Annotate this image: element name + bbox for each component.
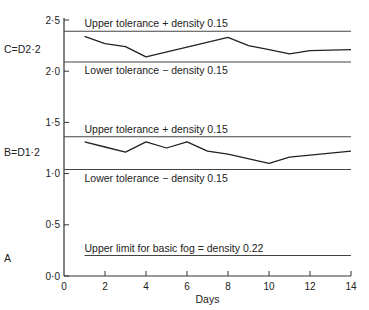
reference-line-label: Lower tolerance − density 0.15 [85, 172, 228, 184]
series-line [85, 36, 352, 57]
x-tick-label: 4 [143, 281, 149, 292]
x-tick-label: 6 [184, 281, 190, 292]
side-labels: C=D2·2B=D1·2A [4, 43, 41, 264]
series-label: B=D1·2 [4, 146, 40, 158]
y-tick-label: 2·5 [46, 15, 61, 26]
x-axis-title: Days [196, 293, 220, 305]
y-tick-label: 0·0 [46, 271, 61, 282]
reference-line-label: Upper limit for basic fog = density 0.22 [85, 242, 264, 254]
reference-line-label: Upper tolerance + density 0.15 [85, 123, 228, 135]
density-control-chart: 0·00·51·01·52·02·502468101214Days Upper … [0, 0, 369, 310]
reference-line-label: Lower tolerance − density 0.15 [85, 64, 228, 76]
y-tick-label: 0·5 [46, 219, 61, 230]
data-series [85, 36, 352, 163]
reference-lines: Upper tolerance + density 0.15Lower tole… [64, 17, 351, 255]
series-line [85, 142, 352, 164]
y-tick-label: 2·0 [46, 66, 61, 77]
x-tick-label: 10 [263, 281, 275, 292]
axes: 0·00·51·01·52·02·502468101214Days [46, 15, 357, 306]
y-tick-label: 1·0 [46, 168, 61, 179]
y-tick-label: 1·5 [46, 117, 61, 128]
x-tick-label: 2 [102, 281, 108, 292]
series-label: A [4, 252, 11, 264]
series-label: C=D2·2 [4, 43, 41, 55]
reference-line-label: Upper tolerance + density 0.15 [85, 17, 228, 29]
x-tick-label: 8 [225, 281, 231, 292]
x-tick-label: 12 [304, 281, 316, 292]
chart-container: 0·00·51·01·52·02·502468101214Days Upper … [0, 0, 369, 310]
x-tick-label: 14 [345, 281, 357, 292]
x-tick-label: 0 [61, 281, 67, 292]
